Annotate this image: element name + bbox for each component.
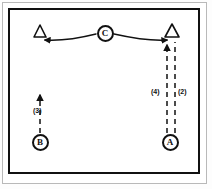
- node-b-label: B: [37, 138, 43, 147]
- node-c-label: C: [102, 29, 109, 38]
- edge-label-b-branch: (3): [33, 107, 42, 114]
- edge-c-to-left-triangle: [45, 34, 96, 40]
- triangle-terminal-right: [165, 24, 179, 37]
- node-b[interactable]: B: [32, 134, 49, 151]
- edge-label-a-branch-left: (4): [151, 88, 160, 95]
- node-a-label: A: [167, 138, 174, 147]
- edge-label-a-branch-right: (2): [178, 88, 187, 95]
- triangle-terminal-left: [34, 25, 46, 37]
- node-a[interactable]: A: [162, 134, 179, 151]
- node-c[interactable]: C: [97, 25, 114, 42]
- figure-root: C B A (3) (4) (2): [0, 0, 212, 189]
- edge-c-to-right-triangle: [114, 34, 167, 40]
